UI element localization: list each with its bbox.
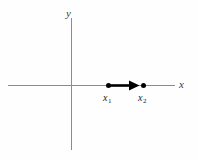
data-point-x2-label-subscript: 2 [142, 97, 146, 105]
data-point-x1-label: x1 [103, 93, 111, 105]
y-axis-label: y [66, 8, 71, 19]
data-point-x2 [141, 83, 146, 88]
x-axis-line [8, 85, 175, 86]
vector-arrow-icon [108, 80, 140, 91]
data-point-x2-label: x2 [138, 93, 146, 105]
x-axis-label: x [179, 79, 184, 90]
data-point-x1-label-subscript: 1 [107, 97, 111, 105]
figure-canvas: y x x1 x2 [0, 0, 198, 160]
y-axis-line [71, 18, 72, 150]
data-point-x1 [106, 83, 111, 88]
